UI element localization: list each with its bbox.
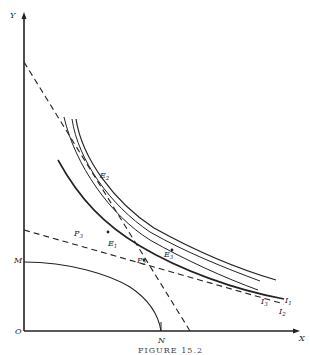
- point-p2-label: P2: [136, 256, 146, 266]
- point-e2-label: E2: [99, 171, 110, 181]
- curve-i3-label: I3: [260, 297, 268, 307]
- curve-i1-label: I1: [284, 296, 292, 306]
- y-axis-arrow-icon: [22, 12, 27, 19]
- point-p3-label: P3: [73, 229, 83, 239]
- x-axis-label: X: [298, 334, 305, 343]
- y-axis-label: Y: [10, 11, 16, 20]
- x-axis-arrow-icon: [293, 329, 300, 334]
- diagram-canvas: Y X O M N P3 E1 P2 E2 E3 I3 I2 I1 FIGURE…: [0, 0, 310, 355]
- steep-price-line: [24, 62, 190, 331]
- figure-caption: FIGURE 15.2: [138, 346, 203, 355]
- point-m-label: M: [13, 256, 23, 265]
- point-e3-label: E3: [163, 250, 174, 260]
- point-e1-label: E1: [107, 239, 117, 249]
- point-e1-marker: [107, 231, 110, 234]
- production-possibility-curve: [24, 262, 161, 331]
- origin-label: O: [15, 327, 22, 336]
- shallow-price-line: [24, 230, 284, 304]
- point-e3-marker: [171, 249, 174, 252]
- point-n-label: N: [157, 336, 166, 345]
- curve-i2-label: I2: [278, 307, 286, 317]
- axes: [22, 12, 301, 334]
